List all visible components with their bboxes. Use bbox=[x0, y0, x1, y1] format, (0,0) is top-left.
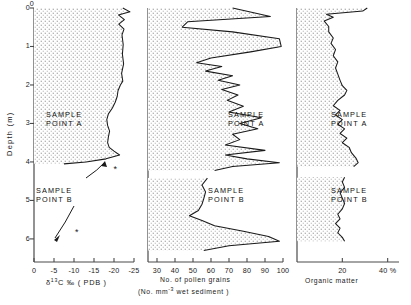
arrowhead-upper bbox=[101, 161, 107, 167]
pollen-x-tick-label-7: 100 bbox=[274, 267, 292, 274]
d13c-sample-point-b-label: SAMPLEPOINT B bbox=[36, 186, 73, 204]
d13c-x-tick-label-1: -5 bbox=[45, 267, 63, 274]
organic-sample-point-b-label: SAMPLEPOINT B bbox=[331, 186, 368, 204]
y-tick-label-3: 3 bbox=[20, 119, 30, 126]
d13c-top-zero-label: 0 bbox=[24, 0, 34, 7]
organic-profile-a-fill bbox=[297, 8, 367, 167]
d13c-x-axis-caption: δ13C ‰ ( PDB ) bbox=[46, 278, 107, 287]
pollen-x-tick-label-4: 70 bbox=[220, 267, 238, 274]
pollen-x-tick-label-1: 40 bbox=[166, 267, 184, 274]
y-tick-label-1: 1 bbox=[20, 42, 30, 49]
d13c-sample-b-marker-upper: * bbox=[113, 165, 117, 174]
y-tick-label-6: 6 bbox=[20, 235, 30, 242]
y-tick-label-2: 2 bbox=[20, 81, 30, 88]
d13c-x-tick-label-2: -10 bbox=[65, 267, 83, 274]
arrow-to-upper-marker bbox=[86, 162, 105, 178]
figure-canvas bbox=[0, 0, 411, 305]
y-tick-label-4: 4 bbox=[20, 158, 30, 165]
arrowhead-lower bbox=[54, 235, 60, 242]
organic-x-tick-label-1: 40 % bbox=[377, 267, 399, 274]
depth-profile-figure: Depth (m) 01234560-5-10-15-20-250δ13C ‰ … bbox=[0, 0, 411, 305]
pollen-x-axis-subcaption: (No. mm-3 wet sediment ) bbox=[138, 287, 229, 296]
d13c-sample-point-a-label: SAMPLEPOINT A bbox=[46, 110, 82, 128]
d13c-profile-fill bbox=[34, 8, 130, 164]
pollen-x-tick-label-2: 50 bbox=[184, 267, 202, 274]
d13c-x-tick-label-3: -15 bbox=[85, 267, 103, 274]
d13c-sample-b-marker-lower: * bbox=[75, 228, 79, 237]
pollen-sample-point-b-label: SAMPLEPOINT B bbox=[208, 186, 245, 204]
pollen-x-tick-label-6: 90 bbox=[256, 267, 274, 274]
pollen-sample-point-a-label: SAMPLEPOINT A bbox=[228, 110, 264, 128]
pollen-profile-a-fill bbox=[148, 8, 281, 170]
delta-superscript: 13 bbox=[51, 277, 58, 283]
d13c-x-tick-label-4: -20 bbox=[105, 267, 123, 274]
arrow-to-lower-marker bbox=[55, 206, 74, 238]
y-tick-label-5: 5 bbox=[20, 196, 30, 203]
organic-x-axis-caption: Organic matter bbox=[305, 278, 358, 285]
pollen-x-tick-label-3: 60 bbox=[202, 267, 220, 274]
organic-sample-point-a-label: SAMPLEPOINT A bbox=[331, 110, 367, 128]
pollen-unit-exponent: -3 bbox=[168, 286, 174, 292]
d13c-x-tick-label-0: 0 bbox=[25, 267, 43, 274]
d13c-x-tick-label-5: -25 bbox=[125, 267, 143, 274]
pollen-x-axis-caption: No. of pollen grains bbox=[160, 277, 231, 284]
organic-x-tick-label-0: 20 bbox=[331, 267, 353, 274]
pollen-x-tick-label-0: 30 bbox=[148, 267, 166, 274]
d13c-caption-text: C ‰ ( PDB ) bbox=[58, 278, 107, 287]
panels-layer bbox=[30, 8, 399, 262]
y-axis-label: Depth (m) bbox=[6, 104, 13, 164]
pollen-x-tick-label-5: 80 bbox=[238, 267, 256, 274]
